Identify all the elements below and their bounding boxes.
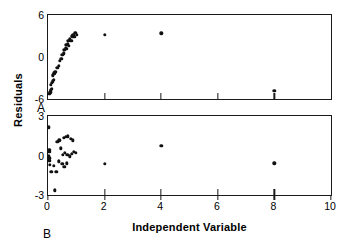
data-point [273, 89, 276, 92]
data-point [63, 165, 66, 168]
x-tick-mark [274, 93, 275, 99]
x-axis-label: Independent Variable [47, 221, 332, 233]
data-point [52, 78, 55, 81]
y-tick-label: 0 [38, 52, 44, 62]
x-tick-label: 0 [44, 201, 50, 212]
data-point [50, 170, 53, 173]
data-point [103, 162, 106, 165]
data-point [48, 163, 51, 166]
data-point [65, 162, 68, 165]
panel-a-label: A [37, 102, 45, 114]
x-tick-mark [217, 93, 218, 99]
data-point [52, 164, 55, 167]
data-point [62, 51, 65, 54]
panel-b-scatter: 30-3 [47, 115, 332, 196]
data-point [103, 33, 106, 36]
x-tick-label: 4 [157, 201, 163, 212]
data-point [59, 147, 62, 150]
panel-a-scatter: 60-6 [47, 14, 332, 100]
data-point [57, 64, 60, 67]
y-tick-label: 0 [38, 151, 44, 161]
panel-a-plot-area: 60-6 [48, 15, 331, 99]
data-point [65, 47, 68, 50]
data-point [47, 159, 50, 162]
data-point [54, 70, 57, 73]
data-point [68, 154, 71, 157]
data-point [55, 170, 58, 173]
data-point [75, 33, 78, 36]
x-tick-mark [104, 93, 105, 99]
y-tick-label: 6 [38, 10, 44, 20]
y-axis-label: Residuals [10, 60, 26, 140]
data-point [50, 87, 53, 90]
panel-b-plot-area: 30-3 [48, 116, 331, 195]
data-point [273, 162, 276, 165]
y-tick-label: -3 [35, 190, 44, 200]
x-tick-label: 10 [324, 201, 336, 212]
data-point [159, 31, 162, 34]
x-tick-mark [161, 93, 162, 99]
residual-plot-figure: Residuals 60-6 30-3 A B Independent Vari… [0, 0, 347, 246]
data-point [58, 139, 61, 142]
data-point [74, 151, 77, 154]
data-point [71, 139, 74, 142]
data-point [67, 44, 70, 47]
x-tick-label: 8 [270, 201, 276, 212]
data-point [47, 125, 50, 128]
data-point [70, 39, 73, 42]
data-point [53, 189, 56, 192]
data-point [60, 57, 63, 60]
data-point [159, 144, 162, 147]
x-tick-label: 6 [214, 201, 220, 212]
data-point [47, 150, 50, 153]
x-tick-label: 2 [101, 201, 107, 212]
